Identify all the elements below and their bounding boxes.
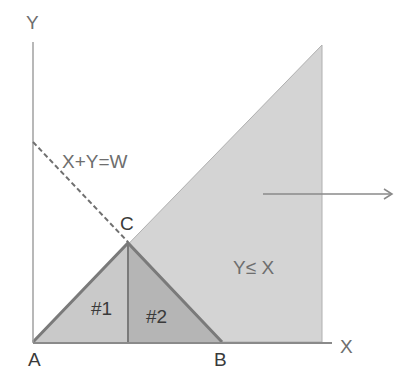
region-label: Y≤ X [233, 258, 274, 277]
y-axis-label: Y [26, 13, 39, 32]
diagram-canvas [0, 0, 412, 389]
line-label: X+Y=W [62, 152, 127, 171]
region-1-label: #1 [91, 299, 112, 318]
point-b-label: B [214, 350, 227, 369]
region-2-label: #2 [146, 307, 167, 326]
point-a-label: A [28, 350, 41, 369]
point-c-label: C [120, 214, 134, 233]
x-axis-label: X [340, 337, 353, 356]
